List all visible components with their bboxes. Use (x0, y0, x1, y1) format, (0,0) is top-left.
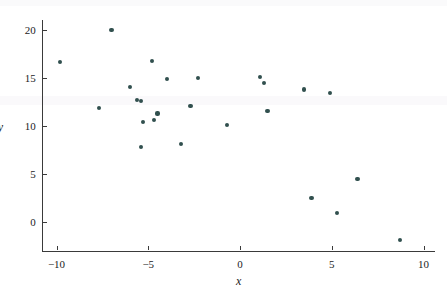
data-point (139, 145, 143, 149)
data-point (97, 106, 101, 110)
data-point (309, 196, 313, 200)
data-point (152, 118, 156, 122)
data-point (179, 142, 183, 146)
data-point (188, 104, 192, 108)
data-point (398, 238, 402, 242)
data-point (155, 111, 159, 115)
data-point (302, 87, 306, 91)
data-point (225, 123, 229, 127)
data-point (141, 120, 145, 124)
data-point (109, 28, 113, 32)
data-point (328, 91, 332, 95)
data-point (128, 85, 132, 89)
data-point (58, 60, 62, 64)
data-point (262, 81, 266, 85)
data-point (139, 99, 143, 103)
data-point (165, 77, 169, 81)
data-point (355, 177, 359, 181)
data-point (150, 59, 154, 63)
data-point (265, 109, 269, 113)
y-axis-title: y (0, 121, 3, 133)
data-point (258, 75, 262, 79)
data-point (196, 76, 200, 80)
data-points-layer (0, 0, 447, 288)
x-axis-title: x (236, 275, 241, 287)
scatter-plot-figure: 05101520−10−50510 x y (0, 0, 447, 288)
data-point (335, 211, 339, 215)
